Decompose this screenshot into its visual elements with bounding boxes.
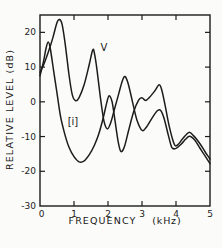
y-tick-label: -10 xyxy=(21,132,36,142)
y-tick-label: -20 xyxy=(21,166,36,176)
series-labels: V[i] xyxy=(68,42,108,127)
series-label-i: [i] xyxy=(68,116,79,127)
curve-v xyxy=(40,19,210,163)
spectrum-figure: 20100-10-20-30012345 V[i] RELATIVE LEVEL… xyxy=(0,0,222,248)
axis-tick-labels: 20100-10-20-30012345 xyxy=(21,27,213,219)
spectrum-curves xyxy=(40,19,210,163)
y-tick-label: 0 xyxy=(30,97,36,107)
x-axis-title: FREQUENCY(kHz) xyxy=(40,215,210,226)
y-tick-label: -30 xyxy=(21,201,36,211)
y-axis-title: RELATIVE LEVEL (dB) xyxy=(4,30,15,190)
y-tick-label: 10 xyxy=(25,62,37,72)
x-axis-title-word: FREQUENCY xyxy=(69,215,137,226)
y-tick-label: 20 xyxy=(25,27,37,37)
series-label-v: V xyxy=(100,42,107,53)
x-axis-title-unit: (kHz) xyxy=(152,215,181,226)
chart-canvas: 20100-10-20-30012345 V[i] xyxy=(0,0,222,248)
curve-i xyxy=(40,42,210,162)
